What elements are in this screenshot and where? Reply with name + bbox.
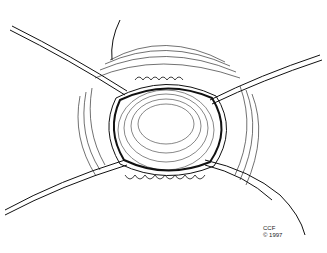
mucosa-rings xyxy=(118,90,214,170)
tissue-folds xyxy=(78,45,259,185)
surgical-illustration xyxy=(0,0,327,253)
credit-year: © 1997 xyxy=(263,232,282,239)
credit-org: CCF xyxy=(263,225,282,232)
ring xyxy=(114,88,222,170)
copyright-credit: CCF © 1997 xyxy=(263,225,282,239)
sutures xyxy=(5,20,322,235)
